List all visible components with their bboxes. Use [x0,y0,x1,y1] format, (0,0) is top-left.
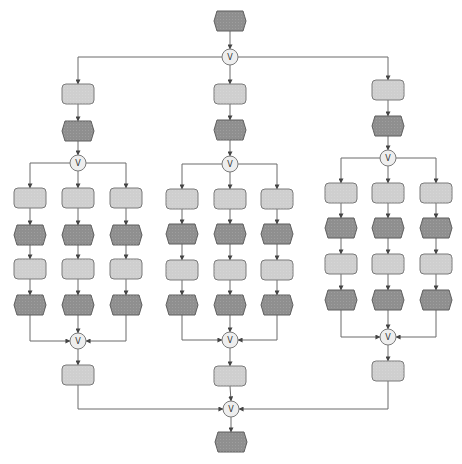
branch-right-col2-function-1 [372,183,404,203]
branch-right-split-connector: V [380,150,396,166]
branch-right-col3-event-2 [420,218,452,238]
connector-or-label: V [385,333,391,342]
branch-left-col-entry-edge [86,163,126,188]
branch-right-col-entry-edge [396,158,436,183]
function-texture [214,189,246,209]
branch-right-col3-event-4 [420,290,452,310]
function-texture [62,259,94,279]
branch-middle-head-function-1 [214,84,246,104]
connector-or-label: V [75,337,81,346]
branch-right-col-exit-edge [396,310,436,337]
function-texture [261,260,293,280]
branch-right-col2-function-3 [372,254,404,274]
start-event [214,11,246,31]
event-texture [214,11,246,31]
event-texture [14,225,46,245]
event-texture [215,432,247,452]
branch-left-col1-event-2 [14,225,46,245]
connector-or-label: V [227,53,233,62]
event-texture [166,295,198,315]
branch-left-col3-event-2 [110,225,142,245]
function-texture [372,80,404,100]
branch-middle-col-exit-edge [182,315,222,340]
branch-left-col1-event-4 [14,295,46,315]
function-texture [420,183,452,203]
branch-middle-col3-event-2 [261,224,293,244]
branch-right-tail-function-1 [372,361,404,381]
branch-middle-tail-function-1 [214,366,246,386]
connector-or-label: V [75,159,81,168]
connector-or-label: V [227,160,233,169]
branch-middle-col3-event-4 [261,295,293,315]
function-texture [166,260,198,280]
branch-right-col-entry-edge [341,158,380,183]
branch-left-col-exit-edge [30,315,70,341]
branch-middle-col1-event-4 [166,295,198,315]
branch-left-col-entry-edge [30,163,70,188]
branch-right-exit-edge [239,381,388,409]
function-texture [261,189,293,209]
function-texture [62,365,94,385]
branch-middle-col2-event-4 [214,295,246,315]
function-texture [166,189,198,209]
event-texture [62,121,94,141]
connector-or-label: V [385,154,391,163]
branch-left-col-exit-edge [86,315,126,341]
branch-left-entry-edge [78,57,222,84]
branch-middle-split-connector: V [222,156,238,172]
branch-right-col1-function-1 [325,183,357,203]
branch-left-col3-event-4 [110,295,142,315]
branch-left-col2-event-2 [62,225,94,245]
event-texture [166,224,198,244]
branch-middle-col-entry-edge [238,164,277,189]
event-texture [110,225,142,245]
bottom-join-connector: V [223,401,239,417]
branch-right-join-connector: V [380,329,396,345]
event-texture [325,290,357,310]
branch-left-tail-function-1 [62,365,94,385]
branch-left-exit-edge [78,385,223,409]
branch-middle-exit-edge [230,386,231,401]
nodes-layer: VVVVVVVV [14,11,452,452]
branch-left-col1-function-3 [14,259,46,279]
branch-right-col1-function-3 [325,254,357,274]
function-texture [372,254,404,274]
epc-diagram: VVVVVVVV [0,0,462,464]
event-texture [372,290,404,310]
event-texture [214,120,246,140]
branch-left-col2-function-3 [62,259,94,279]
branch-middle-col2-function-3 [214,260,246,280]
event-texture [62,295,94,315]
function-texture [214,366,246,386]
event-texture [372,116,404,136]
branch-middle-head-event-2 [214,120,246,140]
branch-middle-col2-function-1 [214,189,246,209]
branch-right-col3-function-3 [420,254,452,274]
branch-right-col-exit-edge [341,310,380,337]
branch-right-col3-function-1 [420,183,452,203]
branch-middle-col-exit-edge [238,315,277,340]
event-texture [261,224,293,244]
function-texture [110,188,142,208]
branch-left-col2-event-4 [62,295,94,315]
event-texture [214,295,246,315]
branch-middle-col3-function-1 [261,189,293,209]
branch-right-head-event-2 [372,116,404,136]
branch-right-col1-event-4 [325,290,357,310]
branch-middle-col1-function-1 [166,189,198,209]
function-texture [62,84,94,104]
branch-right-col2-event-4 [372,290,404,310]
function-texture [14,259,46,279]
function-texture [62,188,94,208]
function-texture [372,183,404,203]
event-texture [62,225,94,245]
event-texture [325,218,357,238]
connector-or-label: V [228,405,234,414]
branch-left-split-connector: V [70,155,86,171]
event-texture [110,295,142,315]
event-texture [420,218,452,238]
branch-middle-col1-function-3 [166,260,198,280]
branch-right-col1-event-2 [325,218,357,238]
branch-middle-col2-event-2 [214,224,246,244]
branch-right-entry-edge [238,57,388,80]
